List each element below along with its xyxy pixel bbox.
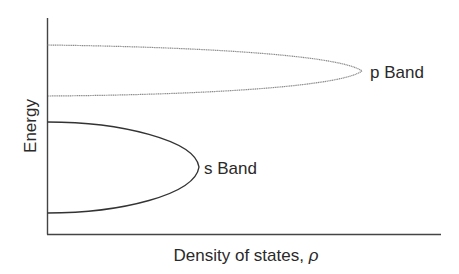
s-band-label: s Band [204,159,257,178]
p-band-label: p Band [370,63,424,82]
x-axis-label-text: Density of states, [174,246,309,265]
p-band-curve [48,45,363,96]
y-axis-label: Energy [21,99,40,153]
rho-symbol: ρ [308,246,319,265]
band-diagram: p Band s Band Energy Density of states, … [0,0,459,274]
x-axis-label: Density of states, ρ [174,246,319,265]
s-band-curve [48,122,200,213]
